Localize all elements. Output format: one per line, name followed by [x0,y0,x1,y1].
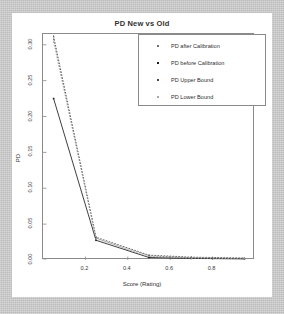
legend-label: PD Lower Bound [171,94,213,100]
legend-item-pd-before-calibration: PD before Calibration [139,55,267,71]
legend-marker-icon [152,62,164,65]
series-point [53,98,55,100]
series-line [54,99,245,259]
y-tick-label: 0.30 [27,35,33,53]
x-tick-label: 0.2 [74,265,94,271]
legend-label: PD before Calibration [171,60,224,66]
series-point [148,256,149,257]
series-point [191,258,192,259]
legend-marker-icon [152,79,164,81]
legend-item-pd-upper-bound: PD Upper Bound [139,72,267,88]
x-tick-label: 0.4 [117,265,137,271]
y-tick-label: 0.25 [27,71,33,89]
chart-panel: PD New vs Old PD Score (Rating) 0.000.05… [12,13,272,297]
legend-label: PD Upper Bound [171,77,213,83]
series-point [244,258,245,259]
series-point [95,238,96,239]
series-point [148,255,149,256]
x-tick-label: 0.8 [202,265,222,271]
y-tick-label: 0.10 [27,178,33,196]
legend-label: PD after Calibration [171,43,220,49]
legend-item-pd-after-calibration: PD after Calibration [139,38,267,54]
y-tick-label: 0.05 [27,214,33,232]
x-axis-label: Score (Rating) [12,281,272,287]
series-point [95,239,97,241]
x-tick-label: 0.6 [159,265,179,271]
legend-item-pd-lower-bound: PD Lower Bound [139,89,267,105]
chart-title: PD New vs Old [12,19,272,28]
series-point [53,41,54,42]
y-tick-label: 0.20 [27,107,33,125]
series-point [53,36,54,37]
legend-marker-icon [152,96,164,98]
y-tick-label: 0.15 [27,142,33,160]
y-tick-label: 0.00 [27,250,33,268]
y-axis-label: PD [15,154,21,162]
chart-legend: PD after Calibration PD before Calibrati… [138,34,266,106]
legend-marker-icon [152,45,164,47]
